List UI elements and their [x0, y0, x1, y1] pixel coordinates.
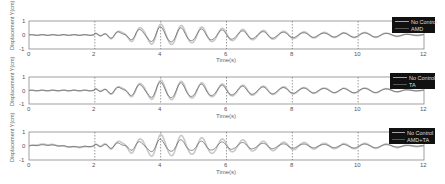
- legend-ta: TA: [409, 82, 416, 88]
- legend-no-control: No Control: [411, 19, 437, 25]
- x-tick: 10: [354, 162, 361, 168]
- plot-amd-ta: Displacement Y(cm) 1 0 -1 0 2 4 6 8 10 1…: [9, 112, 435, 175]
- y-tick-1: 1: [22, 129, 26, 135]
- displacement-charts: Displacement Y(cm) 1 0 -1 0 2 4 6 8 10 1…: [0, 0, 445, 184]
- x-tick: 4: [158, 162, 162, 168]
- legend-amd-ta: AMD+TA: [407, 137, 429, 143]
- plot-ta: Displacement Y(cm) 1 0 -1 0 2 4 6 8 10 1…: [9, 56, 435, 119]
- legend-amd: AMD: [411, 26, 423, 32]
- y-tick-1: 1: [22, 18, 26, 24]
- x-tick: 12: [420, 51, 427, 57]
- x-axis-label: Time(s): [216, 169, 236, 175]
- plot-amd: Displacement Y(cm) 1 0 -1 0 2 4 6 8 10 1…: [9, 0, 437, 63]
- y-tick-0: 0: [22, 88, 26, 94]
- y-tick-0: 0: [22, 143, 26, 149]
- x-tick: 2: [92, 51, 96, 57]
- x-tick: 8: [290, 106, 294, 112]
- x-tick: 6: [224, 162, 228, 168]
- y-tick-neg1: -1: [19, 101, 25, 107]
- x-tick-labels: 0 2 4 6 8 10 12: [27, 106, 427, 112]
- legend-no-control: No Control: [409, 75, 435, 81]
- y-tick-1: 1: [22, 74, 26, 80]
- x-tick: 4: [158, 51, 162, 57]
- y-axis-label: Displacement Y(cm): [9, 112, 15, 162]
- x-axis-label: Time(s): [216, 57, 236, 63]
- x-tick: 0: [27, 162, 31, 168]
- x-tick: 10: [354, 51, 361, 57]
- x-tick: 2: [92, 106, 96, 112]
- x-tick: 12: [420, 106, 427, 112]
- x-tick: 8: [290, 162, 294, 168]
- x-tick: 6: [224, 106, 228, 112]
- x-tick: 0: [27, 106, 31, 112]
- y-tick-0: 0: [22, 32, 26, 38]
- y-tick-neg1: -1: [19, 46, 25, 52]
- x-tick: 10: [354, 106, 361, 112]
- legend: No Control AMD+TA: [389, 128, 435, 144]
- x-tick: 12: [420, 162, 427, 168]
- legend: No Control TA: [390, 73, 435, 89]
- y-tick-neg1: -1: [19, 157, 25, 163]
- x-tick: 4: [158, 106, 162, 112]
- x-tick: 0: [27, 51, 31, 57]
- y-axis-label: Displacement Y(cm): [9, 0, 15, 50]
- legend-no-control: No Control: [407, 130, 433, 136]
- x-tick-labels: 0 2 4 6 8 10 12: [27, 162, 427, 168]
- x-axis-label: Time(s): [216, 113, 236, 119]
- y-axis-label: Displacement Y(cm): [9, 56, 15, 106]
- x-tick: 2: [92, 162, 96, 168]
- legend: No Control AMD: [392, 17, 437, 33]
- x-tick: 8: [290, 51, 294, 57]
